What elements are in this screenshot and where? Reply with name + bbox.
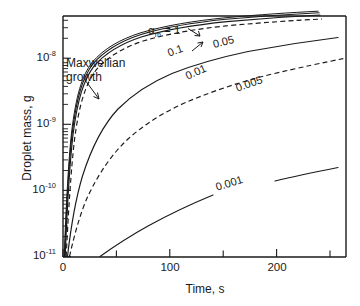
figure-container: 10-8 10-9 10-10 10-11 0 100 200 Droplet …	[0, 0, 360, 306]
zero-one-arrow	[192, 42, 203, 51]
curve-alpha-0-005	[70, 59, 345, 257]
alpha-m-label: αm = 1	[148, 24, 180, 37]
x-ticks	[63, 249, 330, 257]
x-axis-label: Time, s	[150, 283, 260, 297]
y-tick-exponent-1e-8: -8	[49, 49, 56, 58]
y-tick-exponent-1e-9: -9	[49, 115, 56, 124]
x-tick-label-200: 200	[262, 261, 292, 274]
curve-maxwellian	[64, 11, 318, 256]
x-tick-label-0: 0	[55, 261, 71, 274]
maxwellian-growth-annotation: Maxwellian growth	[66, 56, 125, 85]
curve-alpha-0-05	[66, 19, 322, 257]
curve-alpha-1	[65, 13, 319, 257]
maxwellian-line-2: growth	[66, 70, 102, 84]
y-tick-label-1e-11: 10-11	[14, 249, 56, 262]
maxwellian-line-1: Maxwellian	[66, 56, 125, 70]
y-axis-label: Droplet mass, g	[21, 63, 35, 213]
x-tick-label-100: 100	[155, 261, 185, 274]
y-tick-exponent-1e-10: -10	[45, 181, 56, 190]
y-tick-exponent-1e-11: -11	[46, 247, 56, 256]
alpha-equals-value: = 1	[161, 24, 181, 36]
alpha-symbol: α	[148, 24, 155, 36]
